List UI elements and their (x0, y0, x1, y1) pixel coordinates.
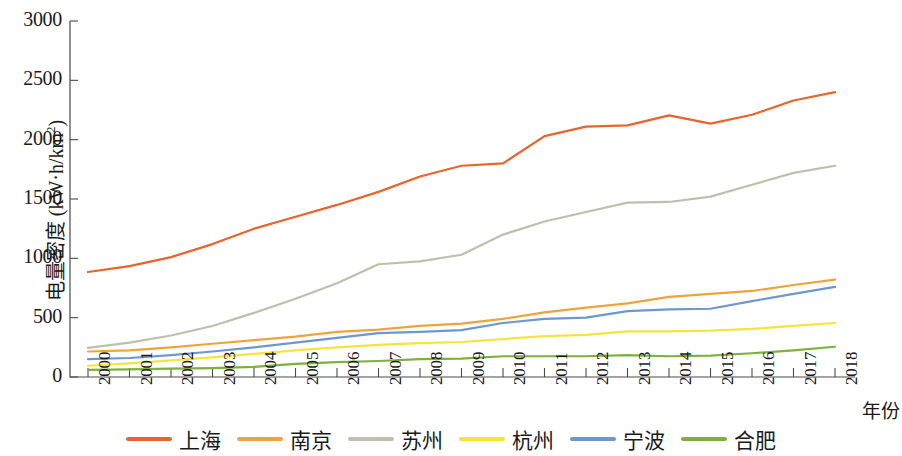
legend-label: 苏州 (401, 424, 443, 454)
legend-item-南京[interactable]: 南京 (237, 424, 332, 454)
legend-swatch-icon (126, 437, 172, 441)
legend-label: 南京 (290, 424, 332, 454)
y-axis-title-exponent: 2 (43, 126, 58, 133)
legend-label: 宁波 (623, 424, 665, 454)
x-tick-label: 2012 (593, 352, 613, 385)
legend-swatch-icon (237, 437, 283, 441)
x-tick-label: 2018 (842, 352, 862, 385)
legend-label: 上海 (179, 424, 221, 454)
legend-swatch-icon (348, 437, 394, 441)
legend-swatch-icon (681, 437, 727, 441)
y-tick-label: 3000 (0, 8, 62, 31)
legend-item-合肥[interactable]: 合肥 (681, 424, 776, 454)
x-tick-label: 2007 (386, 352, 406, 385)
legend-item-苏州[interactable]: 苏州 (348, 424, 443, 454)
series-line-上海 (88, 92, 835, 272)
legend-swatch-icon (459, 437, 505, 441)
x-axis-title: 年份 (862, 396, 900, 423)
x-tick-label: 2004 (261, 352, 281, 385)
legend-label: 合肥 (734, 424, 776, 454)
series-lines (88, 92, 835, 370)
series-line-南京 (88, 280, 835, 352)
legend-swatch-icon (570, 437, 616, 441)
series-line-苏州 (88, 166, 835, 348)
x-tick-label: 2000 (95, 352, 115, 385)
y-axis-title-main: 电量密度 (kW·h/km (45, 133, 67, 301)
plot-area (0, 0, 902, 456)
x-tick-label: 2016 (759, 352, 779, 385)
x-tick-label: 2017 (801, 352, 821, 385)
legend-item-上海[interactable]: 上海 (126, 424, 221, 454)
x-tick-label: 2002 (178, 352, 198, 385)
chart-legend: 上海南京苏州杭州宁波合肥 (0, 424, 902, 454)
x-tick-label: 2003 (220, 352, 240, 385)
x-tick-label: 2014 (676, 352, 696, 385)
y-axis-title-tail: ) (45, 120, 67, 127)
x-tick-label: 2009 (469, 352, 489, 385)
x-tick-label: 2006 (344, 352, 364, 385)
x-tick-label: 2010 (510, 352, 530, 385)
legend-item-宁波[interactable]: 宁波 (570, 424, 665, 454)
x-tick-label: 2011 (552, 352, 572, 385)
x-tick-label: 2005 (303, 352, 323, 385)
y-tick-label: 0 (0, 364, 62, 387)
legend-label: 杭州 (512, 424, 554, 454)
line-chart: 050010001500200025003000 200020012002200… (0, 0, 902, 456)
y-axis-title: 电量密度 (kW·h/km2) (40, 61, 69, 361)
x-tick-label: 2001 (137, 352, 157, 385)
x-tick-label: 2015 (718, 352, 738, 385)
x-tick-label: 2013 (635, 352, 655, 385)
legend-item-杭州[interactable]: 杭州 (459, 424, 554, 454)
x-tick-label: 2008 (427, 352, 447, 385)
